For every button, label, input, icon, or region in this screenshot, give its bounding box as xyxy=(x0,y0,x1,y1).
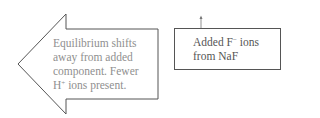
small-up-arrow-icon xyxy=(200,16,203,29)
arrow-text-line: Equilibrium shifts xyxy=(53,36,163,50)
box-text-line: from NaF xyxy=(193,49,279,63)
added-ions-text: Added F− ions from NaF xyxy=(193,35,279,63)
equilibrium-shift-text: Equilibrium shifts away from added compo… xyxy=(53,36,163,92)
ions-present-text: ions present. xyxy=(65,79,126,91)
arrow-text-line: away from added xyxy=(53,50,163,64)
arrow-text-line: H+ ions present. xyxy=(53,78,163,92)
ions-text: ions xyxy=(237,36,259,48)
arrow-text-line: component. Fewer xyxy=(53,64,163,78)
box-text-line: Added F− ions xyxy=(193,35,279,49)
added-f-text: Added F xyxy=(193,36,233,48)
